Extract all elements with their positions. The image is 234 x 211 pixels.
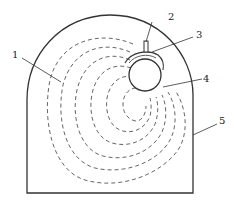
label-2: 2 (168, 11, 174, 22)
drum-circle (129, 59, 161, 91)
housing-outline (27, 15, 193, 193)
dashed-field-lines (47, 38, 185, 183)
label-1: 1 (12, 49, 18, 60)
label-5: 5 (219, 115, 225, 126)
stub-post (144, 41, 148, 52)
label-3: 3 (196, 29, 202, 40)
diagram-canvas: 1 2 3 4 5 (0, 0, 234, 211)
label-4: 4 (203, 73, 209, 84)
